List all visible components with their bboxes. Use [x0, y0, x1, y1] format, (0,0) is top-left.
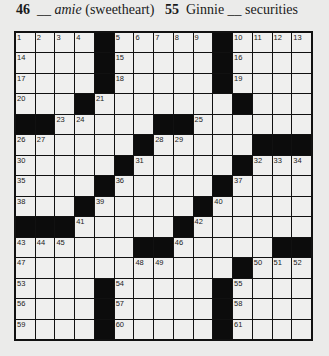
grid-cell[interactable] — [154, 176, 173, 195]
grid-cell[interactable] — [194, 238, 213, 257]
grid-cell[interactable] — [194, 135, 213, 154]
grid-cell[interactable] — [36, 74, 55, 93]
grid-cell[interactable] — [174, 299, 193, 318]
grid-cell[interactable]: 2 — [36, 33, 55, 52]
grid-cell[interactable]: 8 — [174, 33, 193, 52]
grid-cell[interactable] — [253, 299, 272, 318]
grid-cell[interactable] — [134, 53, 153, 72]
grid-cell[interactable] — [134, 115, 153, 134]
grid-cell[interactable] — [115, 135, 134, 154]
grid-cell[interactable] — [174, 197, 193, 216]
grid-cell[interactable] — [194, 156, 213, 175]
grid-cell[interactable] — [273, 197, 292, 216]
grid-cell[interactable] — [273, 53, 292, 72]
grid-cell[interactable] — [154, 94, 173, 113]
grid-cell[interactable] — [292, 74, 311, 93]
grid-cell[interactable] — [174, 258, 193, 277]
grid-cell[interactable] — [174, 279, 193, 298]
grid-cell[interactable] — [174, 74, 193, 93]
grid-cell[interactable] — [233, 217, 252, 236]
grid-cell[interactable]: 26 — [16, 135, 35, 154]
grid-cell[interactable] — [253, 279, 272, 298]
grid-cell[interactable] — [233, 197, 252, 216]
grid-cell[interactable] — [36, 320, 55, 339]
grid-cell[interactable]: 50 — [253, 258, 272, 277]
grid-cell[interactable] — [154, 53, 173, 72]
grid-cell[interactable] — [134, 217, 153, 236]
grid-cell[interactable] — [154, 217, 173, 236]
grid-cell[interactable]: 30 — [16, 156, 35, 175]
grid-cell[interactable] — [154, 299, 173, 318]
grid-cell[interactable] — [194, 299, 213, 318]
grid-cell[interactable] — [292, 176, 311, 195]
grid-cell[interactable]: 28 — [154, 135, 173, 154]
grid-cell[interactable]: 18 — [115, 74, 134, 93]
grid-cell[interactable]: 4 — [75, 33, 94, 52]
grid-cell[interactable]: 47 — [16, 258, 35, 277]
grid-cell[interactable]: 57 — [115, 299, 134, 318]
grid-cell[interactable] — [273, 217, 292, 236]
grid-cell[interactable]: 39 — [95, 197, 114, 216]
grid-cell[interactable]: 44 — [36, 238, 55, 257]
grid-cell[interactable] — [174, 320, 193, 339]
grid-cell[interactable] — [95, 217, 114, 236]
grid-cell[interactable] — [75, 74, 94, 93]
grid-cell[interactable] — [55, 74, 74, 93]
grid-cell[interactable] — [115, 258, 134, 277]
grid-cell[interactable] — [213, 217, 232, 236]
grid-cell[interactable]: 29 — [174, 135, 193, 154]
grid-cell[interactable]: 1 — [16, 33, 35, 52]
grid-cell[interactable]: 48 — [134, 258, 153, 277]
grid-cell[interactable] — [134, 299, 153, 318]
grid-cell[interactable] — [36, 156, 55, 175]
grid-cell[interactable]: 41 — [75, 217, 94, 236]
grid-cell[interactable] — [55, 53, 74, 72]
grid-cell[interactable]: 49 — [154, 258, 173, 277]
grid-cell[interactable] — [213, 238, 232, 257]
grid-cell[interactable] — [292, 115, 311, 134]
grid-cell[interactable] — [253, 176, 272, 195]
grid-cell[interactable] — [55, 176, 74, 195]
grid-cell[interactable]: 54 — [115, 279, 134, 298]
grid-cell[interactable]: 3 — [55, 33, 74, 52]
grid-cell[interactable]: 10 — [233, 33, 252, 52]
grid-cell[interactable]: 6 — [134, 33, 153, 52]
grid-cell[interactable] — [154, 197, 173, 216]
grid-cell[interactable] — [36, 94, 55, 113]
grid-cell[interactable] — [233, 135, 252, 154]
grid-cell[interactable] — [174, 53, 193, 72]
grid-cell[interactable]: 27 — [36, 135, 55, 154]
grid-cell[interactable] — [273, 94, 292, 113]
grid-cell[interactable] — [75, 176, 94, 195]
grid-cell[interactable]: 58 — [233, 299, 252, 318]
grid-cell[interactable]: 61 — [233, 320, 252, 339]
grid-cell[interactable] — [115, 217, 134, 236]
grid-cell[interactable]: 9 — [194, 33, 213, 52]
grid-cell[interactable] — [194, 176, 213, 195]
grid-cell[interactable]: 38 — [16, 197, 35, 216]
grid-cell[interactable]: 24 — [75, 115, 94, 134]
grid-cell[interactable] — [115, 197, 134, 216]
grid-cell[interactable] — [75, 238, 94, 257]
grid-cell[interactable] — [55, 299, 74, 318]
grid-cell[interactable] — [154, 279, 173, 298]
grid-cell[interactable] — [134, 176, 153, 195]
grid-cell[interactable] — [55, 258, 74, 277]
grid-cell[interactable] — [194, 74, 213, 93]
grid-cell[interactable] — [194, 279, 213, 298]
grid-cell[interactable]: 55 — [233, 279, 252, 298]
grid-cell[interactable]: 20 — [16, 94, 35, 113]
grid-cell[interactable] — [213, 94, 232, 113]
grid-cell[interactable]: 40 — [213, 197, 232, 216]
grid-cell[interactable] — [253, 217, 272, 236]
grid-cell[interactable]: 7 — [154, 33, 173, 52]
grid-cell[interactable] — [95, 115, 114, 134]
grid-cell[interactable] — [213, 258, 232, 277]
grid-cell[interactable] — [292, 320, 311, 339]
grid-cell[interactable] — [36, 176, 55, 195]
grid-cell[interactable]: 34 — [292, 156, 311, 175]
grid-cell[interactable] — [75, 156, 94, 175]
grid-cell[interactable] — [75, 53, 94, 72]
grid-cell[interactable]: 16 — [233, 53, 252, 72]
grid-cell[interactable] — [253, 197, 272, 216]
